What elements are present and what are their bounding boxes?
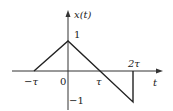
x-axis-label: t (153, 77, 158, 88)
y-tick-one: 1 (74, 29, 80, 40)
x-tick-tau: τ (96, 76, 102, 87)
x-tick-two-tau: 2τ (127, 58, 140, 69)
origin-label: 0 (60, 76, 66, 87)
y-axis-arrow-icon (66, 10, 71, 17)
x-axis-arrow-icon (156, 69, 163, 74)
signal-plot: x(t) 1 0 −τ τ 2τ t −1 (0, 0, 173, 111)
y-axis-label: x(t) (74, 9, 92, 20)
x-tick-neg-tau: −τ (24, 76, 38, 87)
y-tick-minus-one: −1 (69, 95, 84, 106)
plot-canvas: x(t) 1 0 −τ τ 2τ t −1 (0, 0, 173, 111)
